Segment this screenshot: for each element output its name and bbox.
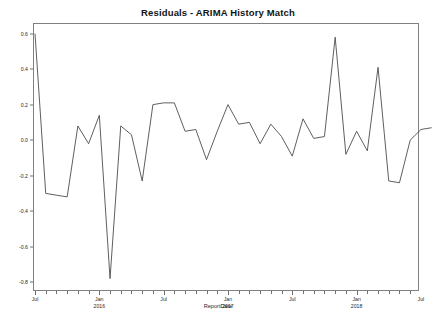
x-tick-mark-minor: [67, 291, 68, 294]
x-tick-mark-minor: [367, 291, 368, 294]
x-tick-label: Jul: [418, 296, 425, 303]
x-tick-mark-minor: [174, 291, 175, 294]
x-tick-mark-minor: [46, 291, 47, 294]
x-tick-mark-minor: [239, 291, 240, 294]
x-tick-mark-minor: [78, 291, 79, 294]
x-tick-mark-minor: [303, 291, 304, 294]
x-tick-mark-major: [228, 291, 229, 295]
x-tick-mark-minor: [56, 291, 57, 294]
x-tick-mark-major: [357, 291, 358, 295]
chart-figure: Residuals - ARIMA History Match 0.60.40.…: [0, 0, 436, 324]
x-tick-mark-major: [35, 291, 36, 295]
x-tick-mark-minor: [153, 291, 154, 294]
x-axis-title: ReportDate: [0, 303, 436, 309]
x-tick-mark-minor: [378, 291, 379, 294]
y-tick-label: 0.0: [21, 137, 28, 143]
x-tick-mark-minor: [282, 291, 283, 294]
x-tick-label-month: Jul: [289, 296, 296, 303]
x-tick-mark-minor: [346, 291, 347, 294]
chart-title: Residuals - ARIMA History Match: [0, 7, 436, 18]
x-tick-label: Jul: [32, 296, 39, 303]
x-tick-mark-minor: [410, 291, 411, 294]
x-tick-mark-minor: [389, 291, 390, 294]
x-tick-label-month: Jan: [94, 296, 106, 303]
x-tick-mark-major: [99, 291, 100, 295]
y-tick-label: 0.4: [21, 66, 28, 72]
x-tick-mark-major: [164, 291, 165, 295]
y-tick-label: 0.2: [21, 102, 28, 108]
x-tick-mark-minor: [110, 291, 111, 294]
y-tick-label: -0.6: [19, 244, 28, 250]
x-tick-mark-minor: [260, 291, 261, 294]
x-tick-mark-minor: [217, 291, 218, 294]
x-tick-mark-minor: [89, 291, 90, 294]
residuals-line-series: [33, 23, 419, 291]
y-tick-label: 0.6: [21, 31, 28, 37]
x-tick-mark-minor: [324, 291, 325, 294]
plot-area: [33, 23, 419, 291]
x-tick-label-month: Jan: [222, 296, 234, 303]
x-tick-label: Jul: [160, 296, 167, 303]
x-tick-label-month: Jan: [351, 296, 363, 303]
x-tick-mark-major: [292, 291, 293, 295]
x-tick-mark-minor: [207, 291, 208, 294]
y-tick-label: -0.4: [19, 208, 28, 214]
x-tick-mark-minor: [249, 291, 250, 294]
x-tick-mark-minor: [185, 291, 186, 294]
series-polyline: [35, 34, 432, 279]
x-tick-label-month: Jul: [32, 296, 39, 303]
x-tick-mark-minor: [131, 291, 132, 294]
x-tick-label-month: Jul: [160, 296, 167, 303]
y-tick-label: -0.8: [19, 279, 28, 285]
x-tick-mark-minor: [121, 291, 122, 294]
x-tick-mark-minor: [399, 291, 400, 294]
x-tick-mark-minor: [314, 291, 315, 294]
x-tick-label: Jul: [289, 296, 296, 303]
y-tick-label: -0.2: [19, 173, 28, 179]
x-tick-mark-minor: [335, 291, 336, 294]
x-tick-mark-minor: [271, 291, 272, 294]
x-tick-label-month: Jul: [418, 296, 425, 303]
x-tick-mark-minor: [142, 291, 143, 294]
x-tick-mark-minor: [196, 291, 197, 294]
